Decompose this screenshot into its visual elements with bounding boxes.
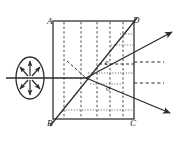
vertex-label-c: C bbox=[130, 119, 136, 128]
vertex-label-d: D bbox=[133, 16, 140, 25]
vertex-label-a: A bbox=[47, 17, 53, 26]
huygens-construction-dashed bbox=[67, 61, 86, 78]
polarization-arrow-down-left bbox=[20, 80, 28, 89]
figure-canvas bbox=[0, 0, 181, 141]
polarization-arrow-up-left bbox=[20, 67, 28, 76]
polarization-arrow-up-right bbox=[32, 67, 40, 76]
o-ray-label: o bbox=[106, 85, 110, 93]
e-ray-label: e bbox=[105, 59, 108, 67]
polarization-arrow-down-right bbox=[32, 80, 40, 89]
vertex-label-b: B bbox=[47, 119, 53, 128]
crystal-block bbox=[53, 21, 134, 119]
exit-reference-dashed-lines bbox=[134, 62, 164, 83]
optic-axis-dashed-lines bbox=[64, 22, 123, 118]
extraordinary-ray bbox=[86, 32, 172, 78]
optics-figure: A D B C e o bbox=[0, 0, 181, 141]
